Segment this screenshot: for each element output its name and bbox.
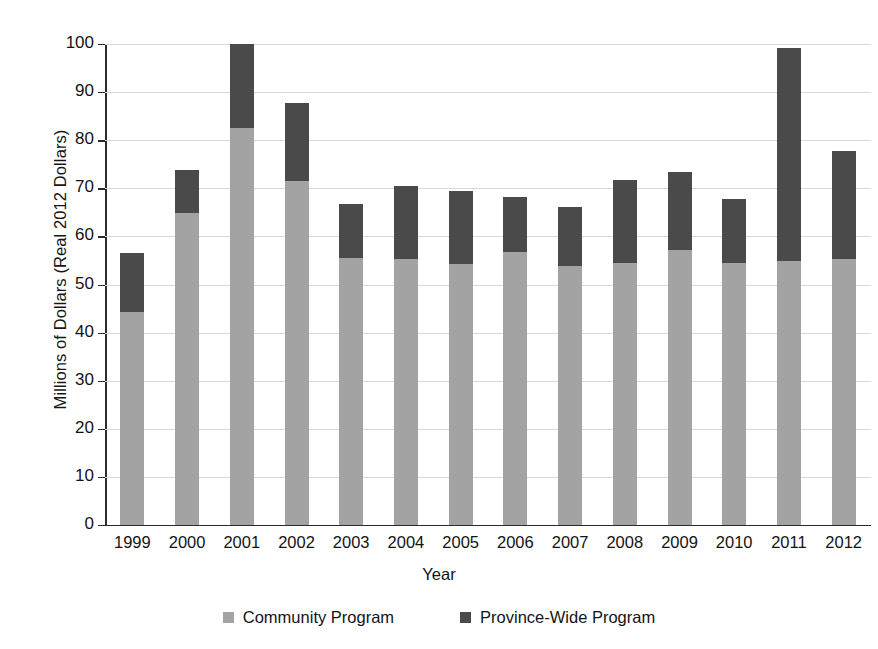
x-axis-title: Year bbox=[0, 565, 878, 584]
x-axis-tick-label: 2001 bbox=[212, 533, 272, 552]
bar-segment-community-program[interactable] bbox=[613, 263, 637, 525]
bar-segment-community-program[interactable] bbox=[832, 259, 856, 525]
x-axis-tick-label: 2002 bbox=[267, 533, 327, 552]
bar-segment-province-wide-program[interactable] bbox=[668, 172, 692, 250]
bar-segment-province-wide-program[interactable] bbox=[722, 199, 746, 263]
x-axis-tick-label: 2012 bbox=[814, 533, 874, 552]
bar-group[interactable] bbox=[558, 44, 582, 525]
x-axis-tick-label: 2004 bbox=[376, 533, 436, 552]
legend-item[interactable]: Community Program bbox=[223, 608, 394, 627]
x-axis-tick-label: 2000 bbox=[157, 533, 217, 552]
bar-group[interactable] bbox=[394, 44, 418, 525]
y-axis-tick-label: 60 bbox=[54, 225, 94, 245]
bar-segment-community-program[interactable] bbox=[777, 261, 801, 525]
y-axis-tick bbox=[98, 333, 105, 334]
bar-group[interactable] bbox=[285, 44, 309, 525]
chart-legend: Community ProgramProvince-Wide Program bbox=[0, 608, 878, 627]
bar-group[interactable] bbox=[175, 44, 199, 525]
bar-segment-community-program[interactable] bbox=[668, 250, 692, 525]
x-axis-tick-label: 2006 bbox=[485, 533, 545, 552]
gridline bbox=[105, 381, 871, 382]
y-axis-tick-label: 20 bbox=[54, 418, 94, 438]
gridline bbox=[105, 477, 871, 478]
stacked-bar-chart: Millions of Dollars (Real 2012 Dollars) … bbox=[0, 0, 878, 649]
legend-item[interactable]: Province-Wide Program bbox=[460, 608, 655, 627]
gridline bbox=[105, 92, 871, 93]
bar-segment-province-wide-program[interactable] bbox=[449, 191, 473, 264]
y-axis-tick-label: 100 bbox=[54, 33, 94, 53]
gridline bbox=[105, 333, 871, 334]
bar-segment-province-wide-program[interactable] bbox=[558, 207, 582, 267]
bar-group[interactable] bbox=[449, 44, 473, 525]
plot-area bbox=[105, 44, 871, 525]
y-axis-tick-label: 80 bbox=[54, 129, 94, 149]
gridline bbox=[105, 188, 871, 189]
gridline bbox=[105, 44, 871, 45]
legend-swatch-icon bbox=[223, 612, 234, 623]
bar-group[interactable] bbox=[613, 44, 637, 525]
y-axis-tick-label: 40 bbox=[54, 322, 94, 342]
y-axis-tick bbox=[98, 188, 105, 189]
bar-group[interactable] bbox=[503, 44, 527, 525]
gridline bbox=[105, 285, 871, 286]
x-axis-tick-label: 2005 bbox=[431, 533, 491, 552]
bar-group[interactable] bbox=[668, 44, 692, 525]
y-axis-tick bbox=[98, 92, 105, 93]
gridline bbox=[105, 140, 871, 141]
bar-segment-province-wide-program[interactable] bbox=[120, 253, 144, 312]
bar-segment-community-program[interactable] bbox=[503, 252, 527, 525]
bar-segment-province-wide-program[interactable] bbox=[503, 197, 527, 252]
x-axis-tick-label: 1999 bbox=[102, 533, 162, 552]
y-axis-tick bbox=[98, 140, 105, 141]
legend-swatch-icon bbox=[460, 612, 471, 623]
bar-segment-community-program[interactable] bbox=[449, 264, 473, 525]
bar-segment-province-wide-program[interactable] bbox=[285, 103, 309, 181]
y-axis-tick-label: 50 bbox=[54, 274, 94, 294]
legend-label: Community Program bbox=[243, 608, 394, 627]
gridline bbox=[105, 525, 871, 526]
bar-segment-province-wide-program[interactable] bbox=[339, 204, 363, 257]
bar-segment-community-program[interactable] bbox=[285, 181, 309, 525]
y-axis-tick-label: 90 bbox=[54, 81, 94, 101]
y-axis-tick bbox=[98, 477, 105, 478]
y-axis-tick bbox=[98, 381, 105, 382]
x-axis-tick-label: 2011 bbox=[759, 533, 819, 552]
y-axis-tick-label: 10 bbox=[54, 466, 94, 486]
bar-group[interactable] bbox=[339, 44, 363, 525]
x-axis-tick-label: 2009 bbox=[650, 533, 710, 552]
x-axis-tick-label: 2010 bbox=[704, 533, 764, 552]
bar-segment-community-program[interactable] bbox=[175, 213, 199, 525]
bar-segment-community-program[interactable] bbox=[120, 312, 144, 525]
bar-group[interactable] bbox=[777, 44, 801, 525]
y-axis-tick bbox=[98, 285, 105, 286]
bar-group[interactable] bbox=[120, 44, 144, 525]
x-axis-tick-label: 2008 bbox=[595, 533, 655, 552]
y-axis-tick bbox=[98, 429, 105, 430]
bar-segment-community-program[interactable] bbox=[394, 259, 418, 525]
y-axis-tick bbox=[98, 525, 105, 526]
bar-group[interactable] bbox=[722, 44, 746, 525]
gridline bbox=[105, 429, 871, 430]
bar-segment-community-program[interactable] bbox=[722, 263, 746, 525]
bar-group[interactable] bbox=[230, 44, 254, 525]
bar-segment-community-program[interactable] bbox=[339, 258, 363, 525]
bar-segment-province-wide-program[interactable] bbox=[394, 186, 418, 258]
bar-segment-province-wide-program[interactable] bbox=[832, 151, 856, 258]
bar-segment-community-program[interactable] bbox=[230, 128, 254, 525]
x-axis-tick-label: 2007 bbox=[540, 533, 600, 552]
y-axis-tick bbox=[98, 44, 105, 45]
bar-group[interactable] bbox=[832, 44, 856, 525]
bar-segment-province-wide-program[interactable] bbox=[175, 170, 199, 214]
bar-segment-community-program[interactable] bbox=[558, 266, 582, 525]
x-axis-tick-label: 2003 bbox=[321, 533, 381, 552]
gridline bbox=[105, 236, 871, 237]
bar-segment-province-wide-program[interactable] bbox=[230, 44, 254, 128]
y-axis-tick bbox=[98, 236, 105, 237]
y-axis-tick-label: 0 bbox=[54, 514, 94, 534]
bar-segment-province-wide-program[interactable] bbox=[613, 180, 637, 264]
bar-segment-province-wide-program[interactable] bbox=[777, 48, 801, 262]
y-axis-tick-label: 70 bbox=[54, 177, 94, 197]
y-axis-tick-label: 30 bbox=[54, 370, 94, 390]
legend-label: Province-Wide Program bbox=[480, 608, 655, 627]
